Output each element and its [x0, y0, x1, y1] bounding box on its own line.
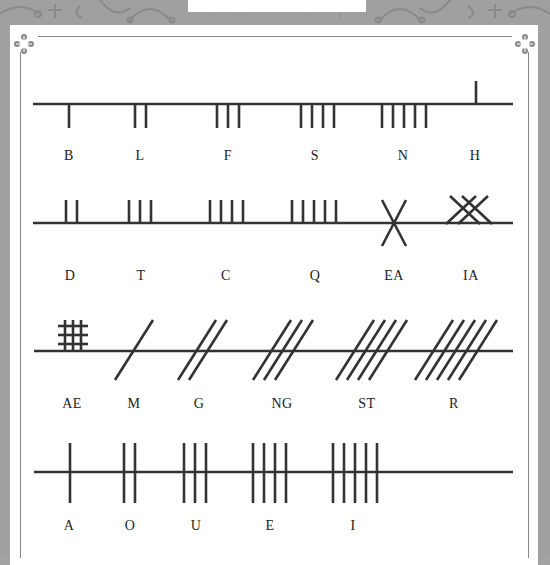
- letter-label-o: O: [125, 518, 136, 534]
- letter-label-ea: EA: [384, 268, 404, 284]
- letter-label-g: G: [194, 396, 205, 412]
- letter-label-st: ST: [358, 396, 375, 412]
- letter-label-t: T: [136, 268, 145, 284]
- letter-label-e: E: [265, 518, 274, 534]
- letter-label-r: R: [449, 396, 459, 412]
- letter-label-q: Q: [310, 268, 321, 284]
- letter-label-f: F: [224, 148, 232, 164]
- letter-label-l: L: [135, 148, 144, 164]
- letter-label-ae: AE: [62, 396, 82, 412]
- letter-label-i: I: [350, 518, 355, 534]
- letter-label-c: C: [221, 268, 231, 284]
- letter-label-ia: IA: [463, 268, 479, 284]
- letter-label-ng: NG: [271, 396, 292, 412]
- letter-label-s: S: [311, 148, 319, 164]
- letter-label-h: H: [470, 148, 481, 164]
- letter-label-a: A: [64, 518, 75, 534]
- letter-label-u: U: [191, 518, 202, 534]
- letter-label-b: B: [64, 148, 74, 164]
- letter-label-d: D: [65, 268, 76, 284]
- letter-label-n: N: [398, 148, 409, 164]
- letter-label-m: M: [128, 396, 141, 412]
